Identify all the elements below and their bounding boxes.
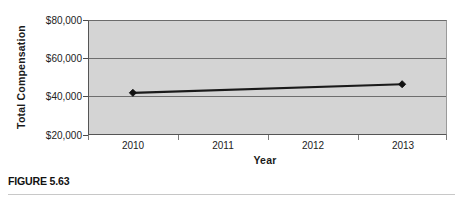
figure-caption-label: FIGURE 5.63 xyxy=(8,175,69,187)
data-point-2010 xyxy=(129,89,136,96)
data-series-layer xyxy=(0,0,461,168)
figure-caption-block: FIGURE 5.63 xyxy=(0,172,461,201)
data-point-2013 xyxy=(399,81,406,88)
line-chart: Total Compensation $80,000 $60,000 $40,0… xyxy=(0,0,461,168)
series-line-total-compensation xyxy=(133,84,402,93)
figure-container: Total Compensation $80,000 $60,000 $40,0… xyxy=(0,0,461,201)
caption-divider xyxy=(8,194,455,195)
